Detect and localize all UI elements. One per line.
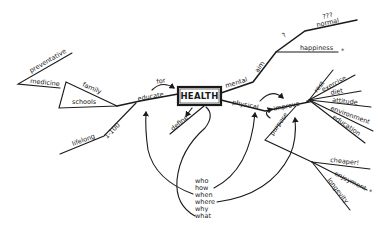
label-aim: aim	[253, 60, 267, 75]
label-medicine: medicine	[30, 77, 60, 88]
label-lifelong: lifelong	[71, 132, 96, 148]
label-physical: physical	[232, 98, 260, 111]
branch-define: define	[169, 106, 204, 134]
label-purpose: purpose	[268, 111, 290, 137]
label-happiness: happiness	[300, 44, 334, 52]
label-range: 1-100	[103, 121, 122, 140]
enjoyment-star: *	[369, 188, 373, 196]
branch-educate: educate for family schools medicine prev…	[18, 47, 178, 154]
mind-map: HEALTH educate for family schools medici…	[0, 0, 391, 238]
question-connectors	[146, 107, 296, 216]
center-label: HEALTH	[180, 91, 218, 101]
label-preventative: preventative	[28, 47, 68, 75]
label-question: ?	[281, 31, 288, 40]
branch-physical: physical improve rest exercise diet atti…	[221, 70, 373, 210]
label-define: define	[169, 113, 190, 132]
label-educate: educate	[137, 91, 164, 103]
label-schools: schools	[72, 98, 97, 106]
label-cheaper: cheaper!	[330, 156, 360, 167]
center-node[interactable]: HEALTH	[178, 87, 221, 105]
happiness-star: *	[341, 47, 345, 55]
question-list: who how when where why what	[195, 177, 215, 220]
question-what: what	[195, 212, 211, 220]
